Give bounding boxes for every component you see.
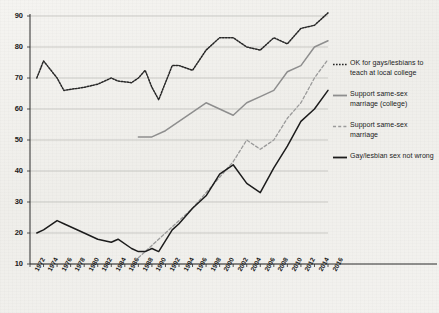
legend-entry-2[interactable]: Support same-sex marriage (college) bbox=[333, 89, 437, 108]
x-axis-ticks bbox=[27, 16, 328, 267]
y-tick-label: 80 bbox=[5, 42, 23, 51]
legend-entry-3[interactable]: Support same-sex marriage bbox=[333, 120, 437, 139]
y-tick-label: 40 bbox=[5, 166, 23, 175]
chart-container: 102030405060708090 197219741976197819801… bbox=[0, 0, 439, 313]
legend-entry-label: Gay/lesbian sex not wrong bbox=[350, 151, 434, 161]
legend-line-swatch-icon bbox=[333, 60, 347, 69]
legend-line-swatch-icon bbox=[333, 153, 347, 162]
chart-legend: OK for gays/lesbians to teach at local c… bbox=[333, 58, 437, 174]
y-tick-label: 60 bbox=[5, 104, 23, 113]
legend-line-swatch-icon bbox=[333, 122, 347, 131]
gridlines bbox=[30, 16, 328, 264]
legend-entry-label: Support same-sex marriage (college) bbox=[350, 89, 437, 108]
y-tick-label: 20 bbox=[5, 228, 23, 237]
y-tick-label: 30 bbox=[5, 197, 23, 206]
series-line-3 bbox=[138, 59, 328, 257]
y-tick-label: 90 bbox=[5, 11, 23, 20]
legend-entry-4[interactable]: Gay/lesbian sex not wrong bbox=[333, 151, 437, 162]
legend-entry-label: Support same-sex marriage bbox=[350, 120, 437, 139]
series-line-1 bbox=[37, 13, 328, 100]
legend-entry-label: OK for gays/lesbians to teach at local c… bbox=[350, 58, 437, 77]
legend-line-swatch-icon bbox=[333, 91, 347, 100]
y-tick-label: 70 bbox=[5, 73, 23, 82]
data-series-group bbox=[37, 13, 328, 258]
legend-entry-1[interactable]: OK for gays/lesbians to teach at local c… bbox=[333, 58, 437, 77]
y-tick-label: 10 bbox=[5, 259, 23, 268]
y-tick-label: 50 bbox=[5, 135, 23, 144]
